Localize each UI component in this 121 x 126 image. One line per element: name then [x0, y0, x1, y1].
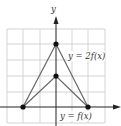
point-neg2-0	[20, 104, 25, 109]
y-axis-label: y	[50, 4, 56, 14]
x-axis-arrow-icon	[113, 105, 121, 110]
y-axis-arrow-icon	[54, 16, 59, 24]
label-2f: y = 2f(x)	[67, 51, 105, 61]
chart-plot: y y = 2f(x) y = f(x)	[0, 0, 121, 126]
point-0-2	[53, 73, 58, 78]
label-f: y = f(x)	[59, 111, 92, 121]
point-0-4	[53, 41, 58, 46]
point-2-0	[85, 104, 90, 109]
